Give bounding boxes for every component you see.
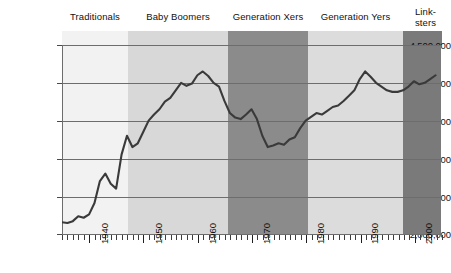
x-tick-label-4: 1980 <box>315 223 326 244</box>
x-tick-label-2: 1960 <box>207 223 218 244</box>
x-minor-tick <box>279 235 280 240</box>
band-strip-generation-yers <box>308 31 403 45</box>
births-line-series <box>62 45 441 234</box>
generation-label-linksters: Link- sters <box>403 7 448 28</box>
x-major-tick <box>415 235 416 243</box>
x-major-tick <box>252 235 253 243</box>
x-minor-tick <box>203 235 204 240</box>
x-minor-tick <box>84 235 85 240</box>
x-minor-tick <box>111 235 112 240</box>
x-minor-tick <box>138 235 139 240</box>
x-major-tick <box>306 235 307 243</box>
x-minor-tick <box>404 235 405 240</box>
x-minor-tick <box>301 235 302 240</box>
x-axis-ticks <box>62 235 442 243</box>
x-minor-tick <box>67 235 68 240</box>
x-minor-tick <box>344 235 345 240</box>
x-tick-label-6: 2000 <box>423 223 434 244</box>
x-minor-tick <box>366 235 367 240</box>
x-minor-tick <box>350 235 351 240</box>
x-minor-tick <box>133 235 134 240</box>
x-minor-tick <box>257 235 258 240</box>
x-tick-label-5: 1990 <box>369 223 380 244</box>
x-minor-tick <box>78 235 79 240</box>
x-minor-tick <box>290 235 291 240</box>
x-minor-tick <box>171 235 172 240</box>
x-minor-tick <box>95 235 96 240</box>
x-minor-tick <box>295 235 296 240</box>
x-minor-tick <box>122 235 123 240</box>
x-minor-tick <box>127 235 128 240</box>
x-major-tick <box>89 235 90 243</box>
x-major-tick <box>198 235 199 243</box>
x-minor-tick <box>116 235 117 240</box>
x-minor-tick <box>285 235 286 240</box>
generation-label-generation-xers: Generation Xers <box>228 12 308 23</box>
x-minor-tick <box>192 235 193 240</box>
x-minor-tick <box>181 235 182 240</box>
x-minor-tick <box>225 235 226 240</box>
generations-births-chart: Traditionals Baby Boomers Generation Xer… <box>0 0 451 273</box>
x-minor-tick <box>388 235 389 240</box>
x-minor-tick <box>219 235 220 240</box>
x-minor-tick <box>437 235 438 240</box>
x-minor-tick <box>274 235 275 240</box>
band-strip-generation-xers <box>228 31 308 45</box>
band-strip-baby-boomers <box>128 31 228 45</box>
x-major-tick <box>143 235 144 243</box>
x-minor-tick <box>73 235 74 240</box>
x-minor-tick <box>236 235 237 240</box>
x-tick-label-0: 1940 <box>99 223 110 244</box>
x-minor-tick <box>409 235 410 240</box>
x-minor-tick <box>420 235 421 240</box>
band-strip-traditionals <box>62 31 128 45</box>
x-minor-tick <box>333 235 334 240</box>
x-minor-tick <box>241 235 242 240</box>
x-minor-tick <box>165 235 166 240</box>
x-minor-tick <box>312 235 313 240</box>
x-major-tick <box>361 235 362 243</box>
x-minor-tick <box>230 235 231 240</box>
x-minor-tick <box>382 235 383 240</box>
generation-label-baby-boomers: Baby Boomers <box>128 12 228 23</box>
x-tick-label-3: 1970 <box>261 223 272 244</box>
x-minor-tick <box>442 235 443 240</box>
x-minor-tick <box>355 235 356 240</box>
generation-label-traditionals: Traditionals <box>62 12 128 23</box>
x-minor-tick <box>176 235 177 240</box>
x-minor-tick <box>247 235 248 240</box>
x-minor-tick <box>187 235 188 240</box>
generation-label-generation-yers: Generation Yers <box>308 12 403 23</box>
x-minor-tick <box>339 235 340 240</box>
x-minor-tick <box>393 235 394 240</box>
x-minor-tick <box>149 235 150 240</box>
x-minor-tick <box>399 235 400 240</box>
x-minor-tick <box>62 235 63 240</box>
x-minor-tick <box>328 235 329 240</box>
x-tick-label-1: 1950 <box>153 223 164 244</box>
